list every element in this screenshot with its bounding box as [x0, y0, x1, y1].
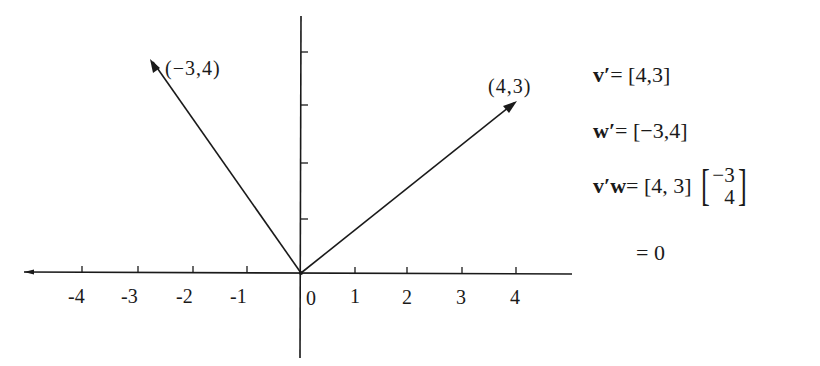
x-tick-label: 1 — [350, 286, 360, 306]
x-tick-label: 2 — [402, 287, 412, 307]
x-tick-label: -2 — [176, 286, 193, 306]
x-tick-label: -3 — [121, 286, 138, 306]
equation-result: = 0 — [636, 240, 665, 266]
origin-point — [299, 271, 303, 275]
equation-lhs: w′ — [593, 118, 615, 144]
equation-dot-product: v′w = [4, 3] [ −3 4 ] — [593, 164, 749, 208]
equation-v-transpose: v′ = [4,3] — [593, 62, 670, 88]
vector-w — [153, 62, 301, 273]
equation-w-transpose: w′ = [−3,4] — [593, 118, 688, 144]
column-vector-bottom: 4 — [724, 186, 735, 208]
x-tick-label: -4 — [68, 286, 85, 306]
x-axis-arrow-icon — [24, 270, 34, 275]
equation-rhs: = [−3,4] — [615, 118, 687, 144]
equation-rhs: = [4, 3] — [626, 173, 692, 199]
y-axis — [300, 16, 301, 358]
equation-rhs: = [4,3] — [610, 62, 670, 88]
column-vector-top: −3 — [712, 164, 734, 186]
equation-lhs: v′ — [593, 62, 610, 88]
y-axis-ticks — [301, 52, 308, 219]
equation-rhs: = 0 — [636, 240, 665, 266]
x-tick-label: 0 — [306, 288, 316, 308]
x-tick-label: 4 — [510, 287, 520, 307]
coordinate-plot — [0, 0, 580, 366]
vector-w-label: (−3,4) — [165, 58, 221, 78]
vector-v-arrowhead-icon — [503, 101, 517, 113]
x-tick-label: 3 — [456, 287, 466, 307]
vector-v-label: (4,3) — [488, 76, 531, 96]
vector-v — [301, 103, 514, 273]
equation-lhs: v′w — [593, 173, 626, 199]
x-tick-label: -1 — [230, 286, 247, 306]
column-vector: [ −3 4 ] — [698, 164, 750, 208]
x-axis — [24, 272, 572, 274]
